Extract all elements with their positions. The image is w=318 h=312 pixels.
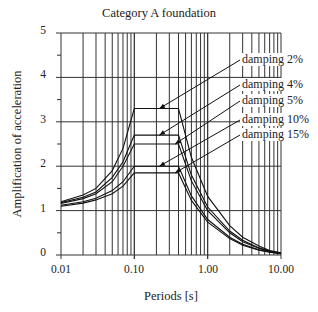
curve-15 xyxy=(61,173,281,254)
label-damping-2: damping 2% xyxy=(240,53,305,66)
grid-lines xyxy=(56,33,281,259)
response-spectrum-chart: Category A foundation Amplification of a… xyxy=(0,0,318,312)
label-damping-5: damping 5% xyxy=(240,94,305,107)
label-damping-15: damping 15% xyxy=(240,128,311,141)
label-damping-4: damping 4% xyxy=(240,78,305,91)
label-damping-10: damping 10% xyxy=(240,113,311,126)
plot-area xyxy=(0,0,318,312)
